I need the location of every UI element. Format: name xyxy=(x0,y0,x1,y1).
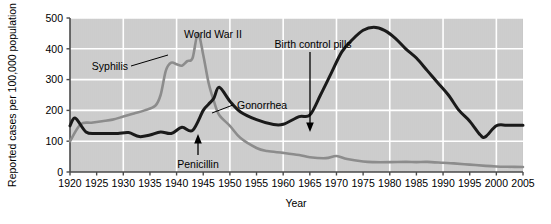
syphilis-label: Syphilis xyxy=(92,60,128,72)
x-tick-label: 1925 xyxy=(85,177,109,189)
y-axis-title: Reported cases per 100,000 population xyxy=(6,3,18,187)
x-tick-label: 1970 xyxy=(325,177,349,189)
x-tick-label: 2005 xyxy=(511,177,535,189)
x-tick-label: 2000 xyxy=(485,177,509,189)
penicillin-label: Penicillin xyxy=(177,158,219,170)
x-tick-label: 1920 xyxy=(58,177,82,189)
x-tick-labels: 1920192519301935194019451950195519601965… xyxy=(58,177,535,189)
x-tick-label: 1975 xyxy=(351,177,375,189)
world-war-ii-label: World War II xyxy=(184,28,242,40)
x-axis-title: Year xyxy=(285,197,307,209)
x-tick-label: 1990 xyxy=(431,177,455,189)
x-tick-label: 1930 xyxy=(112,177,136,189)
x-tick-label: 1935 xyxy=(138,177,162,189)
birth-control-pills-label: Birth control pills xyxy=(274,38,351,50)
x-tick-label: 1940 xyxy=(165,177,189,189)
y-tick-label: 300 xyxy=(45,73,63,85)
x-tick-label: 1960 xyxy=(271,177,295,189)
y-tick-label: 100 xyxy=(45,135,63,147)
y-tick-label: 400 xyxy=(45,43,63,55)
x-tick-label: 1985 xyxy=(405,177,429,189)
gonorrhea-label: Gonorrhea xyxy=(237,99,287,111)
x-tick-label: 1950 xyxy=(218,177,242,189)
x-tick-label: 1945 xyxy=(192,177,216,189)
y-tick-label: 200 xyxy=(45,104,63,116)
x-tick-label: 1965 xyxy=(298,177,322,189)
x-tick-label: 1980 xyxy=(378,177,402,189)
y-tick-label: 0 xyxy=(57,166,63,178)
chart-container: 5004003002001000 19201925193019351940194… xyxy=(0,0,551,224)
std-rates-line-chart: 5004003002001000 19201925193019351940194… xyxy=(0,0,551,224)
x-tick-label: 1955 xyxy=(245,177,269,189)
y-tick-label: 500 xyxy=(45,12,63,24)
x-tick-label: 1995 xyxy=(458,177,482,189)
y-tick-labels: 5004003002001000 xyxy=(45,12,63,178)
